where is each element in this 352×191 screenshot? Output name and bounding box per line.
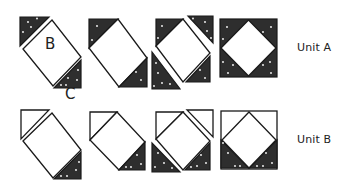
- label-square-b: B: [45, 35, 55, 53]
- unit-b-step-4: [221, 111, 277, 169]
- unit-b-step-1: [21, 110, 81, 179]
- unit-b-step-2: [90, 112, 145, 170]
- unit-a-step-2: [89, 19, 147, 87]
- label-triangle-c: C: [65, 85, 75, 103]
- unit-b-step-3: [152, 110, 213, 172]
- quilt-diagram: [0, 0, 352, 191]
- unit-a-step-3: [152, 16, 213, 89]
- unit-a-step-4: [220, 19, 277, 77]
- unit-b-label: Unit B: [297, 133, 331, 146]
- unit-a-label: Unit A: [297, 41, 331, 54]
